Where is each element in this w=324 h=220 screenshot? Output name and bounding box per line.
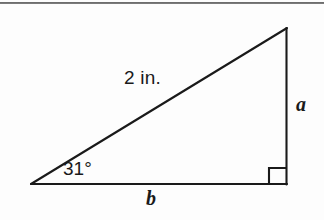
triangle-figure: 2 in. 31° a b: [0, 0, 324, 220]
triangle-drawing: [0, 0, 324, 220]
angle-label: 31°: [63, 159, 92, 178]
right-angle-marker-icon: [269, 168, 286, 184]
hypotenuse-label: 2 in.: [124, 68, 161, 87]
side-a-label: a: [296, 94, 306, 114]
side-b-label: b: [146, 188, 156, 208]
